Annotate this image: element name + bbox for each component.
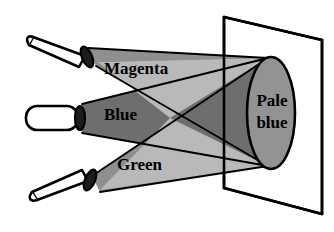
spot-label-line1: Pale	[256, 91, 288, 110]
torch-green-body	[32, 170, 88, 200]
diagram-svg: Pale blue Magenta Blue Green	[0, 0, 334, 232]
label-magenta: Magenta	[104, 59, 169, 78]
torch-magenta-body	[29, 37, 85, 67]
screen-edge-bottom-right	[224, 188, 322, 214]
label-green: Green	[117, 155, 163, 174]
torch-blue-cap	[75, 106, 85, 130]
torch-green	[30, 168, 99, 201]
screen-edge-top-right	[224, 17, 322, 40]
pale-blue-spot: Pale blue	[247, 57, 295, 169]
diagram-canvas: Pale blue Magenta Blue Green	[0, 0, 334, 232]
torch-blue	[26, 106, 85, 130]
torch-blue-body	[26, 106, 78, 130]
label-blue: Blue	[104, 105, 138, 124]
spot-label-line2: blue	[256, 113, 288, 132]
torch-magenta	[27, 36, 96, 69]
